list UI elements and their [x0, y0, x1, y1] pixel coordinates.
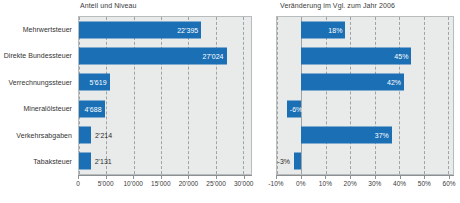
x-tick	[375, 175, 376, 179]
bar-value-label: 18%	[328, 27, 342, 34]
bar-row: -3%	[277, 148, 453, 174]
category-label: Verrechnungssteuer	[0, 69, 76, 96]
x-tick-label: 30%	[368, 180, 381, 187]
bar-value-label: 37%	[375, 131, 389, 138]
chart-panel-left: Anteil und Niveau Mehrwertsteuer Direkte…	[0, 0, 258, 203]
bar-value-label: 45%	[394, 53, 408, 60]
category-label: Direkte Bundessteuer	[0, 43, 76, 70]
bar-row: 2'131	[79, 148, 251, 174]
bar-row: -6%	[277, 96, 453, 122]
x-tick-label: 30'000	[234, 180, 254, 187]
bar-row: 37%	[277, 122, 453, 148]
bar-row: 2'214	[79, 122, 251, 148]
axis-line	[78, 175, 252, 176]
x-tick-label: 25'000	[206, 180, 226, 187]
x-tick	[244, 175, 245, 179]
x-tick	[400, 175, 401, 179]
x-tick	[188, 175, 189, 179]
bar-series-right: 18%45%42%-6%37%-3%	[277, 17, 453, 174]
bar-value-label: 42%	[387, 79, 401, 86]
bar-row: 42%	[277, 69, 453, 95]
category-label: Mehrwertsteuer	[0, 16, 76, 43]
x-tick	[78, 175, 79, 179]
bar-value-label: 27'024	[202, 53, 223, 60]
x-tick-label: 20'000	[179, 180, 199, 187]
category-axis-left: Mehrwertsteuer Direkte Bundessteuer Verr…	[0, 16, 76, 175]
x-tick	[216, 175, 217, 179]
x-axis-right: -10%0%10%20%30%40%50%60%	[276, 175, 454, 199]
x-tick-label: 5'000	[98, 180, 114, 187]
bar-row: 18%	[277, 17, 453, 43]
x-tick-label: 10%	[319, 180, 332, 187]
bar-value-label: 2'214	[95, 131, 112, 138]
x-tick	[325, 175, 326, 179]
bar[interactable]	[79, 152, 91, 169]
chart-panel-right: Veränderung im Vgl. zum Jahr 2006 18%45%…	[258, 0, 460, 203]
bar-row: 27'024	[79, 43, 251, 69]
bar-value-label: 5'619	[90, 79, 107, 86]
plot-area-right: 18%45%42%-6%37%-3%	[276, 16, 454, 175]
x-tick-label: 40%	[393, 180, 406, 187]
bar[interactable]	[79, 126, 91, 143]
x-tick-label: 0%	[296, 180, 306, 187]
x-tick-label: 10'000	[123, 180, 143, 187]
figure: Anteil und Niveau Mehrwertsteuer Direkte…	[0, 0, 460, 203]
x-tick	[276, 175, 277, 179]
category-label: Mineralölsteuer	[0, 96, 76, 123]
category-label: Verkehrsabgaben	[0, 122, 76, 149]
x-tick	[301, 175, 302, 179]
x-tick	[106, 175, 107, 179]
x-axis-left: 05'00010'00015'00020'00025'00030'000	[78, 175, 252, 199]
bar-value-label: 2'131	[95, 157, 112, 164]
x-tick	[350, 175, 351, 179]
bar-row: 5'619	[79, 69, 251, 95]
x-tick-label: 0	[76, 180, 80, 187]
bar-value-label: 4'688	[84, 105, 101, 112]
bar-value-label: -3%	[278, 157, 291, 164]
bar-row: 4'688	[79, 96, 251, 122]
x-tick-label: 15'000	[151, 180, 171, 187]
x-tick	[424, 175, 425, 179]
x-tick-label: -10%	[268, 180, 283, 187]
bar-row: 22'395	[79, 17, 251, 43]
chart-title-left: Anteil und Niveau	[80, 2, 137, 9]
x-tick-label: 20%	[344, 180, 357, 187]
bar-row: 45%	[277, 43, 453, 69]
chart-title-right: Veränderung im Vgl. zum Jahr 2006	[280, 2, 395, 9]
plot-area-left: 22'39527'0245'6194'6882'2142'131	[78, 16, 252, 175]
category-label: Tabaksteuer	[0, 149, 76, 176]
bar[interactable]	[294, 152, 301, 169]
x-tick-label: 50%	[418, 180, 431, 187]
bar-value-label: -6%	[290, 105, 303, 112]
bar-series-left: 22'39527'0245'6194'6882'2142'131	[79, 17, 251, 174]
x-tick	[161, 175, 162, 179]
bar-value-label: 22'395	[177, 27, 198, 34]
x-tick-label: 60%	[442, 180, 455, 187]
x-tick	[133, 175, 134, 179]
axis-line	[276, 175, 454, 176]
x-tick	[449, 175, 450, 179]
